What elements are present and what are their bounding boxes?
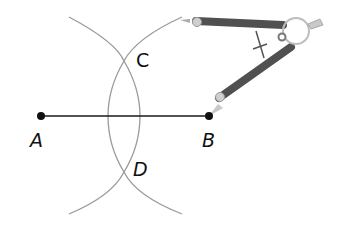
construction-diagram: A B C D (0, 0, 352, 228)
label-a: A (28, 129, 43, 151)
compass-icon (180, 18, 323, 117)
label-b: B (202, 129, 215, 151)
label-d: D (133, 158, 148, 180)
point-a (37, 112, 45, 120)
label-c: C (136, 49, 149, 71)
point-b (205, 112, 213, 120)
